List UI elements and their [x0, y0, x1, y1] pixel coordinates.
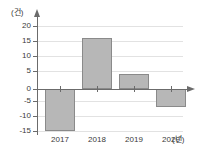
y-tick-label-5: 5	[5, 67, 31, 75]
gridline-neg15	[38, 131, 183, 132]
x-tick-mark-2019	[134, 86, 135, 92]
bar-chart: (건) 20 15 10 5 0 -5 -10 -15 2017 2018 20…	[0, 0, 212, 157]
bar-2017	[45, 89, 75, 131]
y-tick-label-neg15: -15	[5, 127, 31, 135]
x-tick-label-2017: 2017	[41, 136, 79, 144]
x-tick-mark-2018	[97, 86, 98, 92]
x-tick-label-2019: 2019	[115, 136, 153, 144]
x-axis-arrow-icon	[187, 86, 195, 92]
x-tick-mark-2017	[60, 86, 61, 92]
y-axis-line	[37, 16, 38, 135]
y-tick-label-10: 10	[5, 52, 31, 60]
y-tick-label-0: 0	[5, 85, 31, 93]
y-tick-label-neg10: -10	[5, 112, 31, 120]
y-tick-label-15: 15	[5, 37, 31, 45]
gridline-20	[38, 26, 183, 27]
x-tick-label-2018: 2018	[78, 136, 116, 144]
x-tick-mark-2020	[171, 86, 172, 92]
y-axis-unit-label: (건)	[11, 9, 23, 17]
x-axis-unit-label: (년)	[172, 136, 184, 144]
y-tick-label-20: 20	[5, 22, 31, 30]
bar-2018	[82, 38, 112, 89]
y-axis-arrow-icon	[34, 9, 40, 17]
y-tick-label-neg5: -5	[5, 97, 31, 105]
